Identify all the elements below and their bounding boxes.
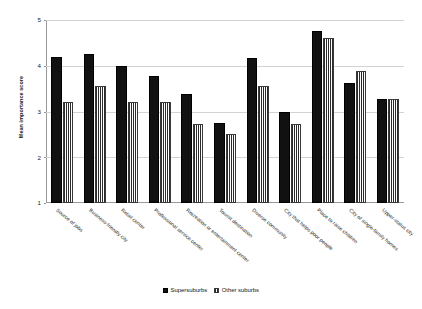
bar-chart: Mean importance score 12345 Source of jo… [0,0,422,309]
bar-other-suburbs [356,71,367,203]
bar-supersuburbs [149,76,160,203]
legend-swatch-icon [163,288,168,293]
x-tick-label: Retail center [121,207,147,230]
bar-supersuburbs [377,99,388,203]
bar-supersuburbs [181,94,192,203]
y-tick-mark [44,20,46,21]
legend-swatch-icon [214,288,219,293]
x-tick-label: Upper-status city [381,207,415,237]
bar-supersuburbs [214,123,225,203]
legend-label: Other suburbs [222,287,259,293]
bar-group [51,20,73,203]
x-tick-label: Recreation or entertainment center [186,207,251,263]
bar-other-suburbs [193,124,204,203]
bar-supersuburbs [344,83,355,203]
bar-supersuburbs [312,31,323,203]
y-tick-label: 1 [27,199,41,206]
bar-group [344,20,366,203]
bar-supersuburbs [84,54,95,203]
bar-supersuburbs [51,57,62,203]
bar-other-suburbs [388,99,399,203]
bar-group [377,20,399,203]
bar-other-suburbs [258,86,269,203]
bar-supersuburbs [279,112,290,204]
bar-other-suburbs [323,38,334,203]
legend-label: Supersuburbs [170,287,207,293]
bar-group [214,20,236,203]
legend-item: Other suburbs [214,287,259,293]
y-tick-mark [44,66,46,67]
bar-group [279,20,301,203]
y-tick-mark [44,157,46,158]
bar-other-suburbs [291,124,302,203]
y-tick-mark [44,112,46,113]
y-tick-label: 3 [27,108,41,115]
bar-supersuburbs [116,66,127,203]
bar-other-suburbs [128,102,139,203]
bar-supersuburbs [247,58,258,203]
y-tick-label: 2 [27,154,41,161]
y-axis-title: Mean importance score [18,42,24,172]
bar-group [247,20,269,203]
bar-other-suburbs [95,86,106,203]
bar-other-suburbs [160,102,171,203]
bar-group [116,20,138,203]
legend-item: Supersuburbs [163,287,207,293]
x-tick-label: Source of jobs [55,207,84,233]
plot-area: 12345 [46,20,404,203]
y-tick-label: 5 [27,16,41,23]
y-tick-label: 4 [27,62,41,69]
bar-group [149,20,171,203]
y-tick-mark [44,203,46,204]
bar-group [181,20,203,203]
bar-group [84,20,106,203]
bar-group [312,20,334,203]
chart-legend: SupersuburbsOther suburbs [0,287,422,293]
x-tick-label: Tourist destination [218,207,254,239]
bar-other-suburbs [63,102,74,203]
bar-other-suburbs [226,134,237,203]
